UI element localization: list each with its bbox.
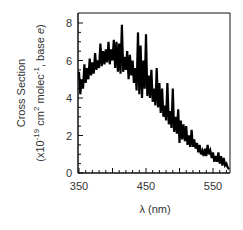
x-axis-ticks: 350450550 xyxy=(70,168,227,192)
y-tick-label: 4 xyxy=(66,92,72,104)
y-tick-label: 8 xyxy=(66,17,72,29)
cross-section-chart: 02468 350450550 λ (nm) Cross Section (x1… xyxy=(0,0,243,230)
x-tick-label: 550 xyxy=(204,180,222,192)
x-axis-label: λ (nm) xyxy=(139,203,170,215)
svg-text:(x10-19 cm2 molec-1, base e): (x10-19 cm2 molec-1, base e) xyxy=(32,24,46,162)
y-axis-ticks: 02468 xyxy=(66,17,83,179)
y-tick-label: 6 xyxy=(66,55,72,67)
y-tick-label: 2 xyxy=(66,130,72,142)
spectrum-line xyxy=(79,25,229,169)
y-axis-label-line1: Cross Section xyxy=(15,59,27,127)
y-axis-label-line2: (x10-19 cm2 molec-1, base e) xyxy=(32,24,46,162)
x-tick-label: 450 xyxy=(137,180,155,192)
y-tick-label: 0 xyxy=(66,167,72,179)
spectrum-series xyxy=(79,25,229,169)
x-tick-label: 350 xyxy=(70,180,88,192)
